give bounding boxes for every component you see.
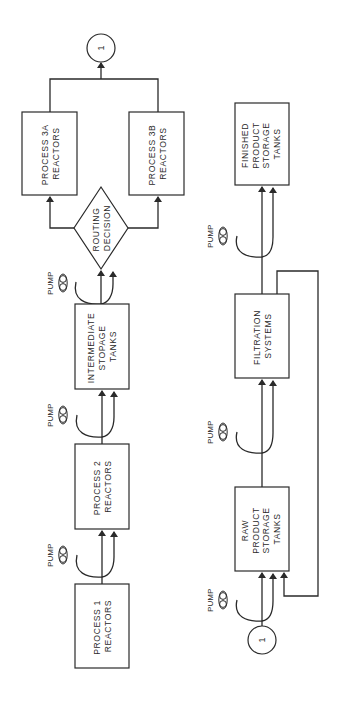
merge-line bbox=[50, 79, 158, 112]
connector-1-top: 1 bbox=[87, 34, 115, 62]
svg-text:1: 1 bbox=[257, 637, 267, 642]
svg-text:PUMP: PUMP bbox=[206, 588, 215, 612]
pump-3: PUMP bbox=[46, 271, 113, 304]
process-2-reactors: PROCESS 2 REACTORS bbox=[75, 444, 129, 529]
pump-6: PUMP bbox=[206, 187, 273, 294]
svg-text:PROCESS 3B REACTORS: PROCESS 3B REACTORS bbox=[147, 122, 168, 186]
pump-icon bbox=[219, 227, 227, 245]
svg-text:PROCESS 3A REACTORS: PROCESS 3A REACTORS bbox=[40, 122, 61, 185]
pump-icon bbox=[219, 423, 227, 441]
pump-1: PUMP bbox=[46, 531, 114, 584]
pump-2: PUMP bbox=[46, 391, 114, 444]
connector-1-bottom: 1 bbox=[248, 626, 276, 654]
pump-5: PUMP bbox=[206, 380, 273, 487]
svg-text:PUMP: PUMP bbox=[206, 224, 215, 248]
svg-text:1: 1 bbox=[96, 45, 106, 50]
svg-text:PUMP: PUMP bbox=[206, 420, 215, 444]
pump-4: PUMP bbox=[206, 573, 273, 626]
pump-icon bbox=[59, 546, 67, 564]
finished-product-storage-tanks: FINISHED PRODUCT STORAGE TANKS bbox=[235, 103, 289, 185]
process-3b-reactors: PROCESS 3B REACTORS bbox=[129, 112, 184, 195]
svg-text:PUMP: PUMP bbox=[46, 543, 55, 567]
process-flow-diagram: 1 PROCESS 3A REACTORS PROCESS 3B REACTOR… bbox=[0, 0, 340, 703]
process-3a-reactors: PROCESS 3A REACTORS bbox=[22, 112, 77, 195]
pump-icon bbox=[59, 406, 67, 424]
svg-text:PUMP: PUMP bbox=[46, 271, 55, 295]
svg-text:PUMP: PUMP bbox=[46, 403, 55, 427]
svg-text:PROCESS 1 REACTORS: PROCESS 1 REACTORS bbox=[92, 597, 113, 655]
process-1-reactors: PROCESS 1 REACTORS bbox=[75, 584, 129, 668]
arrow-to-3a bbox=[50, 197, 74, 228]
raw-product-storage-tanks: RAW PRODUCT STORAGE TANKS bbox=[235, 487, 289, 571]
pump-icon bbox=[59, 274, 67, 292]
svg-text:ROUTING DECISION: ROUTING DECISION bbox=[91, 205, 112, 252]
pump-icon bbox=[219, 591, 227, 609]
svg-text:PROCESS 2 REACTORS: PROCESS 2 REACTORS bbox=[92, 458, 113, 516]
arrow-to-3b bbox=[128, 197, 158, 228]
svg-text:FILTRATION SYSTEMS: FILTRATION SYSTEMS bbox=[252, 307, 273, 365]
filtration-systems: FILTRATION SYSTEMS bbox=[235, 294, 289, 378]
routing-decision: ROUTING DECISION bbox=[74, 187, 128, 269]
intermediate-storage-tanks: INTERMEDIATE STOPAGE TANKS bbox=[75, 304, 129, 389]
